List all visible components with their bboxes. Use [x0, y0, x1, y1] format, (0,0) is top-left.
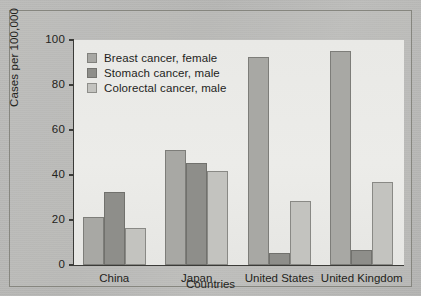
legend-item: Colorectal cancer, male [87, 80, 226, 95]
y-axis-tick-mark [69, 219, 74, 221]
chart-figure-frame: 020406080100 ChinaJapanUnited StatesUnit… [9, 10, 412, 287]
scanned-page-background: 020406080100 ChinaJapanUnited StatesUnit… [0, 0, 421, 296]
x-axis-title: Countries [10, 278, 411, 290]
y-axis-tick-label: 100 [45, 34, 69, 46]
legend-swatch-icon [87, 68, 97, 78]
y-axis-title: Cases per 100,000 [8, 8, 20, 107]
legend-item: Stomach cancer, male [87, 65, 226, 80]
y-axis-tick-label: 20 [52, 214, 69, 226]
y-axis-tick-mark [69, 39, 74, 41]
y-axis-tick-label: 60 [52, 124, 69, 136]
legend-item-label: Breast cancer, female [104, 52, 217, 64]
legend-swatch-icon [87, 83, 97, 93]
y-axis-tick-mark [69, 264, 74, 266]
y-axis-tick-label: 0 [58, 259, 69, 271]
chart-legend: Breast cancer, femaleStomach cancer, mal… [85, 48, 230, 97]
y-axis-tick-label: 40 [52, 169, 69, 181]
legend-item: Breast cancer, female [87, 50, 226, 65]
y-axis-tick-mark [69, 84, 74, 86]
legend-item-label: Stomach cancer, male [104, 67, 220, 79]
legend-swatch-icon [87, 53, 97, 63]
y-axis-tick-label: 80 [52, 79, 69, 91]
y-axis-tick-mark [69, 174, 74, 176]
y-axis-tick-mark [69, 129, 74, 131]
legend-item-label: Colorectal cancer, male [104, 82, 226, 94]
